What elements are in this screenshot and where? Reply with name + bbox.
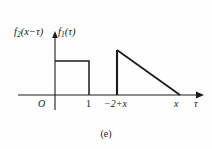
tick-label-x: x bbox=[174, 99, 178, 109]
y-axis-arrowhead bbox=[52, 31, 58, 38]
f2-argument: (x−τ) bbox=[21, 26, 44, 37]
rect-pulse-f1 bbox=[55, 61, 89, 95]
tick-label-shift: −2+x bbox=[104, 99, 127, 109]
plot-canvas bbox=[0, 0, 212, 149]
triangle-hypotenuse-f2 bbox=[117, 50, 180, 95]
tick-label-one: 1 bbox=[86, 99, 91, 109]
figure-caption: (e) bbox=[0, 128, 212, 139]
convolution-figure: f2(x−τ) f1(τ) O 1 −2+x x τ (e) bbox=[0, 0, 212, 149]
curve-label-f1: f1(τ) bbox=[58, 27, 75, 39]
axis-label-tau: τ bbox=[194, 99, 198, 109]
f1-argument: (τ) bbox=[65, 26, 76, 37]
tick-label-origin: O bbox=[38, 99, 45, 109]
curve-label-f2: f2(x−τ) bbox=[14, 27, 43, 39]
